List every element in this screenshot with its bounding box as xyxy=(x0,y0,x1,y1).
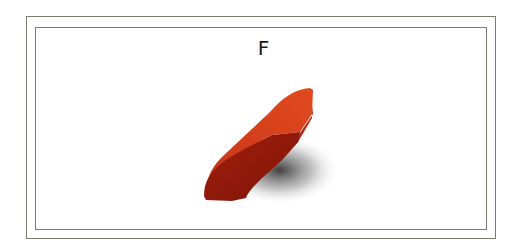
red-profile-object xyxy=(0,0,517,251)
